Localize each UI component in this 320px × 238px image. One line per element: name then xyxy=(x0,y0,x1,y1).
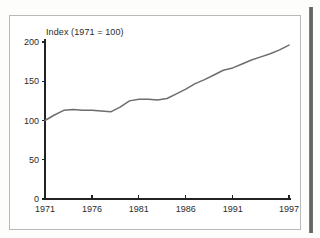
y-tick-label: 0 xyxy=(34,194,39,204)
y-tick-label: 150 xyxy=(24,76,39,86)
y-tick-label: 200 xyxy=(24,37,39,47)
index-series-line xyxy=(45,45,289,120)
y-tick-label: 100 xyxy=(24,116,39,126)
y-tick-label: 50 xyxy=(29,155,39,165)
binding-spine xyxy=(309,7,313,233)
scanned-page: Index (1971 = 100) 050100150200 19711976… xyxy=(0,0,320,238)
x-tick-label: 1971 xyxy=(35,204,55,214)
x-tick-label: 1986 xyxy=(176,204,196,214)
x-tick-label: 1991 xyxy=(223,204,243,214)
x-tick-label: 1976 xyxy=(82,204,102,214)
x-tick-label: 1997 xyxy=(279,204,299,214)
x-tick-label: 1981 xyxy=(129,204,149,214)
chart-area: Index (1971 = 100) 050100150200 19711976… xyxy=(10,16,302,231)
x-axis: 197119761981198619911997 xyxy=(35,195,299,214)
line-chart: 050100150200 197119761981198619911997 xyxy=(10,16,302,231)
y-axis: 050100150200 xyxy=(24,37,45,204)
chart-frame: Index (1971 = 100) 050100150200 19711976… xyxy=(9,15,301,230)
